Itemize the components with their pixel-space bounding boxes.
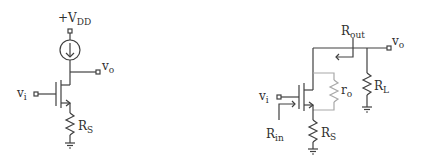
vdd-terminal bbox=[68, 29, 72, 33]
vi-label-right: vi bbox=[258, 89, 269, 105]
vdd-label: +VDD bbox=[58, 11, 91, 27]
ground-icon-right-rl bbox=[362, 107, 372, 112]
ro-label: ro bbox=[341, 83, 352, 99]
vi-label: vi bbox=[16, 86, 27, 102]
vo-terminal bbox=[96, 70, 100, 74]
vo-label-right: vo bbox=[391, 34, 404, 50]
nmos-transistor-icon-right bbox=[299, 83, 313, 111]
rl-label: RL bbox=[374, 79, 389, 95]
vi-terminal-right bbox=[277, 95, 281, 99]
rl-resistor-icon bbox=[363, 73, 371, 95]
left-circuit: +VDD vo vi RS bbox=[16, 11, 114, 148]
nmos-transistor-icon bbox=[56, 80, 70, 108]
vo-label: vo bbox=[101, 59, 114, 75]
current-source-icon bbox=[60, 40, 80, 60]
vi-terminal bbox=[34, 92, 38, 96]
rs-label: RS bbox=[78, 119, 93, 135]
rin-label: Rin bbox=[266, 127, 284, 143]
circuit-diagram: +VDD vo vi RS bbox=[0, 0, 422, 163]
rs-resistor-icon bbox=[66, 113, 74, 135]
right-circuit: Rout vo ro vi Rin bbox=[258, 24, 404, 154]
rs-label-right: RS bbox=[321, 126, 336, 142]
ground-icon bbox=[65, 143, 75, 148]
vo-terminal-right bbox=[387, 46, 391, 50]
ro-resistor-icon bbox=[313, 73, 338, 110]
rout-label: Rout bbox=[341, 24, 365, 40]
rs-resistor-icon-right bbox=[309, 120, 317, 142]
ground-icon-right-rs bbox=[308, 149, 318, 154]
